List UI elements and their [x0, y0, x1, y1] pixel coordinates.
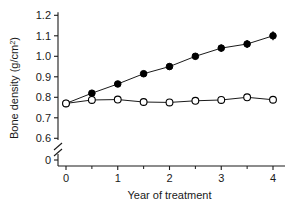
y-axis-tick-label: 1.2	[36, 9, 51, 21]
x-axis-tick-label: 2	[166, 172, 172, 184]
y-axis-tick-label: 1.1	[36, 30, 51, 42]
y-axis-tick-label: 0.8	[36, 91, 51, 103]
x-axis-tick-label: 1	[115, 172, 121, 184]
y-axis-tick-label: 0.6	[36, 132, 51, 144]
data-point-open-circle	[114, 96, 121, 103]
x-axis-tick-label: 0	[63, 172, 69, 184]
bone-density-line-chart: 1.21.11.00.90.80.70.6001234Year of treat…	[0, 0, 301, 207]
y-axis-tick-label: 0.9	[36, 71, 51, 83]
data-point-filled-circle	[192, 53, 199, 60]
data-point-filled-circle	[218, 45, 225, 52]
chart-figure: 1.21.11.00.90.80.70.6001234Year of treat…	[0, 0, 301, 207]
data-point-open-circle	[88, 97, 95, 104]
data-series	[63, 31, 277, 107]
x-axis-tick-label: 3	[218, 172, 224, 184]
data-point-filled-circle	[140, 70, 147, 77]
data-point-filled-circle	[244, 41, 251, 48]
data-point-open-circle	[166, 99, 173, 106]
data-point-open-circle	[218, 97, 225, 104]
y-axis-tick-label: 1.0	[36, 50, 51, 62]
axes	[54, 12, 285, 170]
series-open-circle-series	[63, 94, 277, 107]
data-point-open-circle	[270, 96, 277, 103]
data-point-filled-circle	[114, 81, 121, 88]
data-point-open-circle	[140, 99, 147, 106]
data-point-filled-circle	[89, 90, 96, 97]
data-point-open-circle	[244, 94, 251, 101]
x-axis-tick-label: 4	[270, 172, 276, 184]
data-point-filled-circle	[270, 33, 277, 40]
y-axis-title: Bone density (g/cm2)	[8, 37, 21, 139]
data-point-open-circle	[192, 97, 199, 104]
y-axis-tick-label: 0.7	[36, 112, 51, 124]
x-axis-title: Year of treatment	[128, 189, 212, 201]
data-point-filled-circle	[166, 63, 173, 70]
data-point-open-circle	[63, 100, 70, 107]
y-axis-tick-label: 0	[45, 154, 51, 166]
